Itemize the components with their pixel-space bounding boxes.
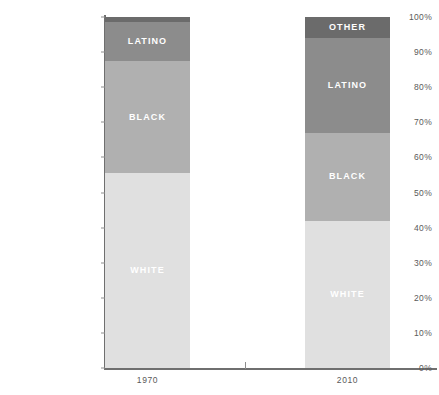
stacked-bar-chart: 0%10%20%30%40%50%60%70%80%90%100% LATINO… [0, 0, 439, 395]
x-axis-center-tick [245, 362, 246, 369]
bar-segment-2010-latino: LATINO [305, 38, 390, 133]
bar-segment-1970-white: WHITE [105, 173, 190, 368]
bar-segment-2010-white: WHITE [305, 221, 390, 368]
x-axis-label-2010: 2010 [305, 375, 390, 385]
bar-1970: LATINOBLACKWHITE [105, 17, 190, 368]
bar-segment-1970-black: BLACK [105, 61, 190, 173]
bar-segment-2010-black: BLACK [305, 133, 390, 221]
x-axis-label-1970: 1970 [105, 375, 190, 385]
bar-segment-label: WHITE [330, 290, 365, 299]
bar-segment-label: BLACK [129, 113, 166, 122]
bar-2010: OTHERLATINOBLACKWHITE [305, 17, 390, 368]
bar-segment-label: BLACK [329, 172, 366, 181]
bar-segment-2010-other: OTHER [305, 17, 390, 38]
bar-segment-label: LATINO [328, 81, 367, 90]
bar-segment-label: LATINO [128, 37, 167, 46]
bar-segment-1970-latino: LATINO [105, 22, 190, 61]
bar-segment-label: WHITE [130, 266, 165, 275]
bar-segment-label: OTHER [329, 23, 366, 32]
